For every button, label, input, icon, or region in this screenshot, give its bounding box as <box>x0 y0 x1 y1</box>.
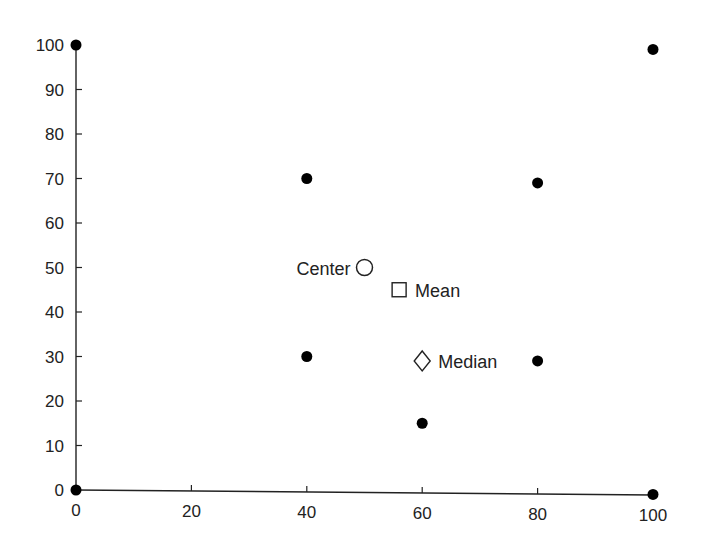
y-tick-label: 70 <box>45 170 64 189</box>
annotation-median: Median <box>414 351 497 372</box>
y-tick-label: 20 <box>45 392 64 411</box>
data-point <box>648 44 659 55</box>
x-tick-label: 100 <box>639 506 667 525</box>
data-point <box>71 40 82 51</box>
x-tick-label: 20 <box>182 502 201 521</box>
y-tick-label: 90 <box>45 81 64 100</box>
data-point <box>301 351 312 362</box>
data-point <box>532 355 543 366</box>
y-tick-label: 50 <box>45 259 64 278</box>
x-tick-label: 60 <box>413 504 432 523</box>
data-point <box>648 489 659 500</box>
annotation-label: Center <box>296 259 350 279</box>
x-tick-label: 40 <box>297 503 316 522</box>
axes <box>76 45 653 495</box>
x-tick-label: 0 <box>71 501 80 520</box>
y-tick-label: 60 <box>45 214 64 233</box>
y-tick-label: 0 <box>55 481 64 500</box>
x-axis-line <box>76 490 653 495</box>
annotation-label: Median <box>438 352 497 372</box>
annotation-mean: Mean <box>392 281 460 301</box>
open-circle-icon <box>357 260 373 276</box>
y-tick-label: 30 <box>45 348 64 367</box>
x-tick-label: 80 <box>528 505 547 524</box>
data-point <box>532 177 543 188</box>
annotations: CenterMeanMedian <box>296 259 497 372</box>
y-tick-label: 10 <box>45 437 64 456</box>
annotation-center: Center <box>296 259 372 279</box>
axis-ticks: 0102030405060708090100020406080100 <box>36 36 668 525</box>
annotation-label: Mean <box>415 281 460 301</box>
scatter-chart: 0102030405060708090100020406080100 Cente… <box>0 0 705 551</box>
open-square-icon <box>392 283 406 297</box>
data-points <box>71 40 659 500</box>
data-point <box>417 418 428 429</box>
open-diamond-icon <box>414 351 430 371</box>
y-tick-label: 40 <box>45 303 64 322</box>
y-tick-label: 80 <box>45 125 64 144</box>
data-point <box>301 173 312 184</box>
y-tick-label: 100 <box>36 36 64 55</box>
data-point <box>71 485 82 496</box>
